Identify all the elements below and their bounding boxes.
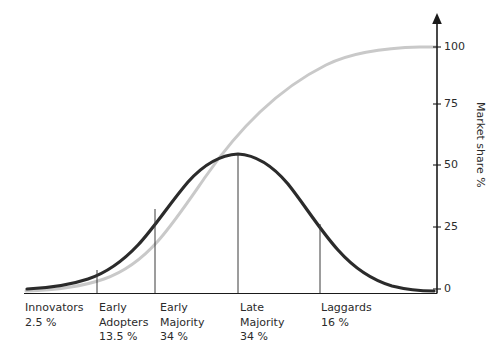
segment-label-early-majority: Early Majority 34 % [160, 301, 204, 345]
y-tick-label-0: 0 [444, 283, 451, 294]
y-axis-title: Market share % [474, 102, 487, 188]
segment-label-laggards: Laggards 16 % [321, 301, 372, 330]
bell-curve-path [27, 154, 434, 291]
y-tick-label-50: 50 [444, 159, 458, 170]
segment-name-laggards: Laggards [321, 301, 372, 316]
segment-percent-late-majority: 34 % [240, 330, 284, 345]
segment-percent-early-majority: 34 % [160, 330, 204, 345]
segment-name-innovators: Innovators [25, 301, 83, 316]
segment-name-late-majority-line1: Late [240, 301, 284, 316]
segment-label-late-majority: Late Majority 34 % [240, 301, 284, 345]
segment-label-early-adopters: Early Adopters 13.5 % [99, 301, 148, 345]
segment-label-innovators: Innovators 2.5 % [25, 301, 83, 330]
segment-name-early-majority-line1: Early [160, 301, 204, 316]
segment-name-early-adopters-line1: Early [99, 301, 148, 316]
segment-name-early-adopters-line2: Adopters [99, 316, 148, 331]
y-axis-arrow-icon [432, 13, 442, 24]
adoption-curve-chart: 100 75 50 25 0 Market share % Innovators… [0, 0, 498, 363]
s-curve-path [26, 47, 436, 291]
segment-percent-innovators: 2.5 % [25, 316, 83, 331]
y-tick-label-25: 25 [444, 221, 458, 232]
segment-name-late-majority-line2: Majority [240, 316, 284, 331]
segment-percent-laggards: 16 % [321, 316, 372, 331]
y-tick-label-75: 75 [444, 98, 458, 109]
segment-name-early-majority-line2: Majority [160, 316, 204, 331]
y-tick-label-100: 100 [444, 41, 465, 52]
segment-percent-early-adopters: 13.5 % [99, 330, 148, 345]
